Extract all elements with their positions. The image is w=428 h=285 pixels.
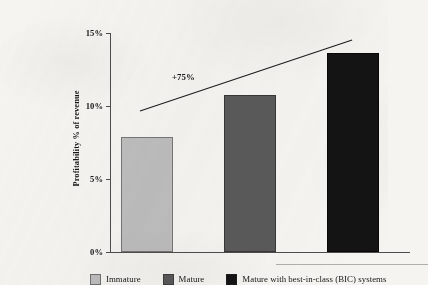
x-axis-line [110,252,410,253]
legend-label: Mature [179,274,205,284]
profitability-bar-chart: Profitability % of revenue 15% 10% 5% 0% [40,16,428,285]
trend-line [110,33,410,252]
y-tick-mark [106,252,110,253]
legend-item-mature-bic: Mature with best-in-class (BIC) systems [226,274,386,285]
y-tick-label: 10% [86,101,103,111]
legend-label: Mature with best-in-class (BIC) systems [242,274,386,284]
legend-label: Immature [106,274,141,284]
legend-swatch-icon [90,274,101,285]
scan-edge-line [276,264,428,265]
plot-area: 15% 10% 5% 0% +75% [110,33,410,252]
y-axis-title: Profitability % of revenue [72,39,81,239]
y-tick-label: 5% [90,174,103,184]
legend-swatch-icon [226,274,237,285]
y-tick-label: 0% [90,247,103,257]
y-tick-label: 15% [86,28,103,38]
legend-swatch-icon [163,274,174,285]
growth-annotation-label: +75% [172,72,195,82]
legend-item-immature: Immature [90,274,141,285]
chart-legend: Immature Mature Mature with best-in-clas… [90,269,426,285]
legend-item-mature: Mature [163,274,205,285]
